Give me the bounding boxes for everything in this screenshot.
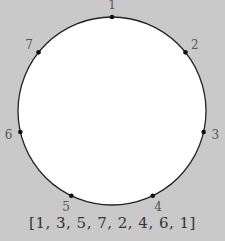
- node-label-7: 7: [25, 38, 33, 52]
- node-dot-2: [183, 50, 188, 55]
- node-label-6: 6: [5, 128, 13, 142]
- node-label-2: 2: [191, 38, 199, 52]
- node-dot-3: [201, 130, 206, 135]
- node-dot-7: [36, 50, 41, 55]
- node-dot-1: [110, 15, 115, 20]
- node-dot-5: [69, 193, 74, 198]
- node-label-1: 1: [108, 0, 116, 12]
- node-dot-4: [150, 193, 155, 198]
- sequence-caption: [1, 3, 5, 7, 2, 4, 6, 1]: [0, 214, 225, 232]
- node-label-3: 3: [212, 128, 220, 142]
- circle: [18, 17, 206, 205]
- node-dot-6: [18, 130, 23, 135]
- node-label-5: 5: [62, 200, 70, 214]
- node-label-4: 4: [154, 200, 162, 214]
- circle-diagram: 1234567: [0, 0, 225, 241]
